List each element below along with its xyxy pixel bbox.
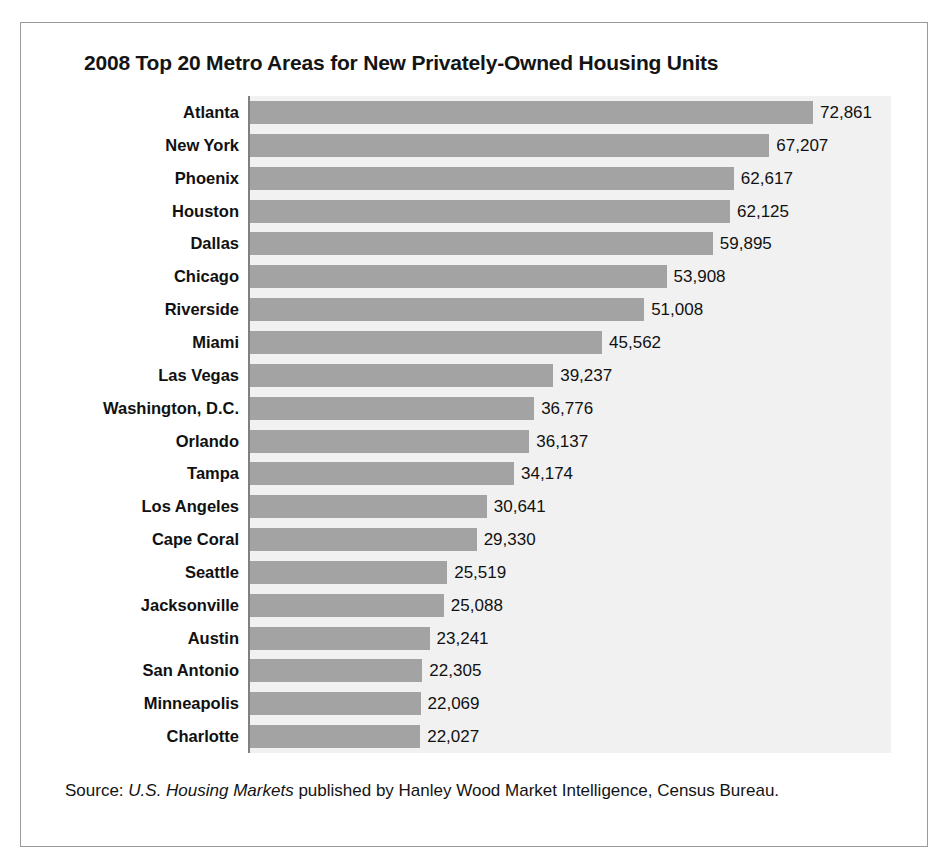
bar-track: 72,861 (250, 96, 891, 129)
bar-track: 39,237 (250, 359, 891, 392)
bar-row: Miami45,562 (21, 326, 929, 359)
bar-category-label: Jacksonville (21, 589, 239, 622)
bar-category-label: San Antonio (21, 654, 239, 687)
bar-value-label: 36,776 (534, 392, 593, 425)
bar-row: Cape Coral29,330 (21, 523, 929, 556)
bar (250, 265, 667, 288)
bar-track: 22,027 (250, 720, 891, 753)
bar-category-label: Austin (21, 622, 239, 655)
bar-row: Orlando36,137 (21, 425, 929, 458)
source-note: Source: U.S. Housing Markets published b… (65, 778, 865, 803)
bar-value-label: 72,861 (813, 96, 872, 129)
bar-value-label: 30,641 (487, 490, 546, 523)
bar-value-label: 34,174 (514, 457, 573, 490)
bar-value-label: 53,908 (667, 260, 726, 293)
bar-track: 67,207 (250, 129, 891, 162)
bar (250, 725, 420, 748)
figure-frame: 2008 Top 20 Metro Areas for New Privatel… (20, 22, 928, 847)
bar-category-label: Las Vegas (21, 359, 239, 392)
bar-value-label: 62,125 (730, 195, 789, 228)
bar-track: 25,088 (250, 589, 891, 622)
bar-value-label: 22,069 (421, 687, 480, 720)
bar-track: 22,305 (250, 654, 891, 687)
bar-track: 53,908 (250, 260, 891, 293)
bar-category-label: New York (21, 129, 239, 162)
bar-row: Jacksonville25,088 (21, 589, 929, 622)
bar-category-label: Riverside (21, 293, 239, 326)
bar-value-label: 36,137 (529, 425, 588, 458)
bar (250, 627, 430, 650)
bar-row: Dallas59,895 (21, 227, 929, 260)
bar-value-label: 67,207 (769, 129, 828, 162)
bar-category-label: Chicago (21, 260, 239, 293)
bar (250, 561, 447, 584)
bar-category-label: Tampa (21, 457, 239, 490)
bar (250, 298, 644, 321)
bar-value-label: 39,237 (553, 359, 612, 392)
bar-category-label: Charlotte (21, 720, 239, 753)
bar (250, 331, 602, 354)
bar-row: Seattle25,519 (21, 556, 929, 589)
bar (250, 462, 514, 485)
bar (250, 232, 713, 255)
bar-track: 62,617 (250, 162, 891, 195)
bar (250, 364, 553, 387)
bar-track: 22,069 (250, 687, 891, 720)
bar (250, 430, 529, 453)
bar-category-label: Phoenix (21, 162, 239, 195)
bar-track: 34,174 (250, 457, 891, 490)
bar-row: Charlotte22,027 (21, 720, 929, 753)
bar-value-label: 62,617 (734, 162, 793, 195)
bar (250, 101, 813, 124)
source-suffix: published by Hanley Wood Market Intellig… (294, 781, 779, 800)
bar (250, 397, 534, 420)
bar-category-label: Washington, D.C. (21, 392, 239, 425)
bar-row: Phoenix62,617 (21, 162, 929, 195)
bar-track: 23,241 (250, 622, 891, 655)
bar-category-label: Cape Coral (21, 523, 239, 556)
bar-value-label: 25,088 (444, 589, 503, 622)
bar (250, 594, 444, 617)
bar (250, 200, 730, 223)
bar-value-label: 45,562 (602, 326, 661, 359)
bar-row: Riverside51,008 (21, 293, 929, 326)
bar (250, 134, 769, 157)
bar (250, 528, 477, 551)
bar-track: 30,641 (250, 490, 891, 523)
bar-row: Washington, D.C.36,776 (21, 392, 929, 425)
bar-value-label: 22,305 (422, 654, 481, 687)
bar-category-label: Atlanta (21, 96, 239, 129)
bar-track: 45,562 (250, 326, 891, 359)
bar-value-label: 29,330 (477, 523, 536, 556)
bar-track: 62,125 (250, 195, 891, 228)
bar-track: 25,519 (250, 556, 891, 589)
bar-row: Houston62,125 (21, 195, 929, 228)
bar-row: Tampa34,174 (21, 457, 929, 490)
bar-row: Chicago53,908 (21, 260, 929, 293)
bar-row: Atlanta72,861 (21, 96, 929, 129)
bar-value-label: 51,008 (644, 293, 703, 326)
bar (250, 495, 487, 518)
bar-track: 29,330 (250, 523, 891, 556)
bar-row: Las Vegas39,237 (21, 359, 929, 392)
bar-row: Minneapolis22,069 (21, 687, 929, 720)
bar-value-label: 25,519 (447, 556, 506, 589)
source-prefix: Source: (65, 781, 128, 800)
bar-track: 36,137 (250, 425, 891, 458)
bar-category-label: Houston (21, 195, 239, 228)
bar-row: Los Angeles30,641 (21, 490, 929, 523)
bar-category-label: Los Angeles (21, 490, 239, 523)
bar (250, 167, 734, 190)
bar-value-label: 23,241 (430, 622, 489, 655)
bar-category-label: Orlando (21, 425, 239, 458)
bar-row: Austin23,241 (21, 622, 929, 655)
bar (250, 692, 421, 715)
bar-value-label: 22,027 (420, 720, 479, 753)
bar-category-label: Minneapolis (21, 687, 239, 720)
bar-row: San Antonio22,305 (21, 654, 929, 687)
bar-value-label: 59,895 (713, 227, 772, 260)
bar-category-label: Miami (21, 326, 239, 359)
bar-track: 51,008 (250, 293, 891, 326)
bar-category-label: Dallas (21, 227, 239, 260)
bar-row: New York67,207 (21, 129, 929, 162)
